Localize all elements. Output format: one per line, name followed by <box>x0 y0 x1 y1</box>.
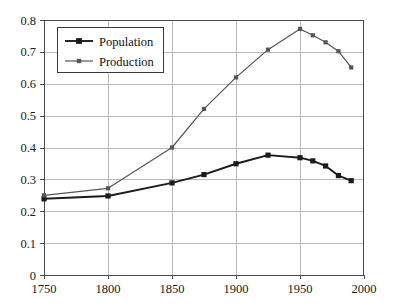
chart-legend: PopulationProduction <box>58 28 164 73</box>
y-axis-tick-label: 0.1 <box>20 237 36 251</box>
series-line <box>44 155 351 199</box>
data-point-marker <box>105 193 110 198</box>
x-axis-tick-label: 1900 <box>224 282 249 296</box>
data-point-marker <box>324 40 328 44</box>
data-point-marker <box>170 145 174 149</box>
data-point-marker <box>266 48 270 52</box>
y-axis-tick-label: 0.8 <box>20 14 36 28</box>
y-axis-tick-label: 0.3 <box>20 173 36 187</box>
data-point-marker <box>310 158 315 163</box>
x-axis-tick-labels: 175018001850190019502000 <box>32 282 377 296</box>
data-point-marker <box>233 161 238 166</box>
y-axis-tick-label: 0.7 <box>20 45 36 59</box>
y-axis-tick-label: 0.5 <box>20 109 36 123</box>
x-axis-tick-label: 1800 <box>96 282 121 296</box>
data-point-marker <box>265 153 270 158</box>
x-axis-tick-label: 1750 <box>32 282 57 296</box>
legend-label: Production <box>99 55 155 69</box>
data-point-marker <box>202 107 206 111</box>
y-axis-tick-label: 0 <box>30 269 36 283</box>
data-point-marker <box>349 178 354 183</box>
y-axis-tick-label: 0.6 <box>20 77 36 91</box>
chart-canvas: 00.10.20.30.40.50.60.70.8 17501800185019… <box>0 0 394 308</box>
x-axis-tick-label: 1950 <box>288 282 313 296</box>
series-population <box>41 153 353 202</box>
data-point-marker <box>298 27 302 31</box>
data-point-marker <box>169 180 174 185</box>
data-point-marker <box>234 75 238 79</box>
data-point-marker <box>297 155 302 160</box>
y-axis-tick-label: 0.4 <box>20 141 36 155</box>
data-point-marker <box>336 173 341 178</box>
legend-marker-swatch <box>77 59 81 63</box>
x-axis-tick-label: 1850 <box>160 282 185 296</box>
y-axis-tick-labels: 00.10.20.30.40.50.60.70.8 <box>20 14 36 283</box>
data-point-marker <box>349 65 353 69</box>
y-axis-tick-label: 0.2 <box>20 205 36 219</box>
legend-marker-swatch <box>76 38 82 44</box>
data-point-marker <box>201 172 206 177</box>
data-point-marker <box>336 49 340 53</box>
data-point-marker <box>311 33 315 37</box>
line-chart: 00.10.20.30.40.50.60.70.8 17501800185019… <box>0 0 394 308</box>
data-point-marker <box>42 193 46 197</box>
x-axis-tick-label: 2000 <box>352 282 377 296</box>
data-point-marker <box>323 163 328 168</box>
data-point-marker <box>106 186 110 190</box>
legend-label: Population <box>99 35 154 49</box>
